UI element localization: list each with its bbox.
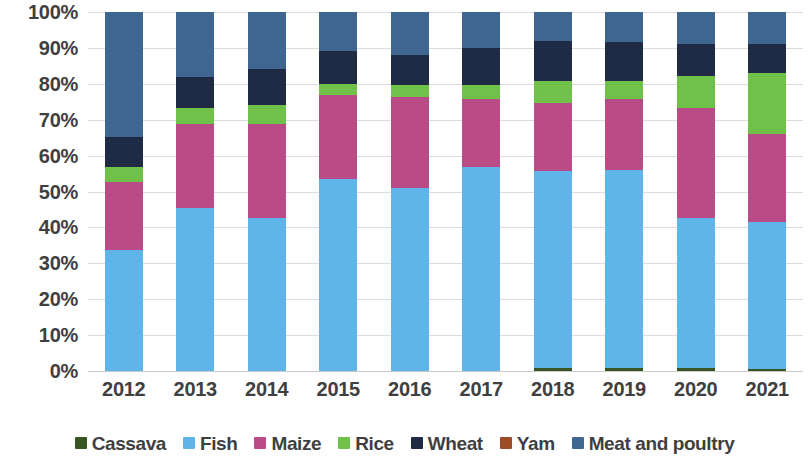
y-axis-tick-label: 100%	[0, 1, 78, 24]
legend-item-label: Yam	[517, 434, 555, 453]
x-axis-tick-label: 2012	[88, 378, 160, 401]
bar-segment	[534, 103, 572, 171]
bar-stack	[462, 12, 500, 371]
legend-swatch-icon	[500, 437, 512, 449]
x-axis-tick-label: 2018	[517, 378, 589, 401]
bar-stack	[391, 12, 429, 371]
y-axis-tick-label: 10%	[0, 324, 78, 347]
legend-swatch-icon	[183, 437, 195, 449]
x-axis-tick-label: 2021	[732, 378, 804, 401]
legend-item-label: Rice	[355, 434, 394, 453]
bar-segment	[677, 368, 715, 371]
bar-segment	[105, 12, 143, 137]
bar-segment	[677, 12, 715, 44]
bar-segment	[105, 137, 143, 167]
bar-segment	[248, 69, 286, 105]
bar-segment	[748, 44, 786, 73]
bar-segment	[677, 108, 715, 217]
bar-segment	[748, 134, 786, 223]
bar-segment	[391, 85, 429, 98]
chart-legend: CassavaFishMaizeRiceWheatYamMeat and pou…	[0, 428, 809, 458]
bar-segment	[605, 81, 643, 99]
bar-segment	[391, 55, 429, 84]
bar-stack	[319, 12, 357, 371]
x-axis-tick-label: 2016	[374, 378, 446, 401]
y-axis-tick-label: 0%	[0, 360, 78, 383]
bar-segment	[748, 73, 786, 134]
bar-segment	[462, 85, 500, 99]
bar-stack	[534, 12, 572, 371]
legend-swatch-icon	[338, 437, 350, 449]
bar-segment	[534, 12, 572, 41]
x-axis-tick-label: 2020	[660, 378, 732, 401]
bar-segment	[462, 99, 500, 167]
legend-item[interactable]: Wheat	[411, 434, 483, 453]
bar-segment	[605, 12, 643, 42]
y-axis-tick-label: 30%	[0, 252, 78, 275]
bar-segment	[176, 108, 214, 124]
legend-item-label: Meat and poultry	[589, 434, 735, 453]
y-axis-tick-label: 50%	[0, 180, 78, 203]
bar-segment	[462, 12, 500, 48]
legend-swatch-icon	[75, 437, 87, 449]
bar-stack	[105, 12, 143, 371]
bar-segment	[319, 95, 357, 179]
legend-item[interactable]: Cassava	[75, 434, 166, 453]
y-axis-tick-label: 20%	[0, 288, 78, 311]
bar-segment	[105, 167, 143, 182]
bar-segment	[605, 170, 643, 369]
bar-segment	[391, 188, 429, 371]
bar-segment	[176, 124, 214, 208]
bar-segment	[534, 81, 572, 103]
legend-swatch-icon	[411, 437, 423, 449]
y-axis-tick-label: 60%	[0, 144, 78, 167]
bar-segment	[319, 84, 357, 95]
bar-segment	[105, 250, 143, 371]
bar-segment	[605, 368, 643, 371]
y-axis-tick-label: 40%	[0, 216, 78, 239]
x-axis-tick-label: 2014	[231, 378, 303, 401]
bar-stack	[677, 12, 715, 371]
bar-stack	[176, 12, 214, 371]
bar-segment	[319, 179, 357, 371]
bar-stack	[748, 12, 786, 371]
bar-segment	[748, 369, 786, 371]
bar-stack	[605, 12, 643, 371]
bar-segment	[248, 105, 286, 124]
gridline	[88, 371, 803, 372]
legend-item[interactable]: Meat and poultry	[572, 434, 735, 453]
stacked-bar-chart: 0%10%20%30%40%50%60%70%80%90%100% 201220…	[0, 0, 809, 460]
legend-item-label: Cassava	[92, 434, 166, 453]
legend-item-label: Fish	[200, 434, 237, 453]
legend-item[interactable]: Fish	[183, 434, 237, 453]
bar-segment	[176, 77, 214, 108]
legend-item-label: Wheat	[428, 434, 483, 453]
bar-segment	[248, 124, 286, 218]
legend-item[interactable]: Maize	[254, 434, 321, 453]
bar-segment	[677, 76, 715, 108]
x-axis-tick-label: 2015	[303, 378, 375, 401]
x-axis-tick-label: 2013	[160, 378, 232, 401]
legend-swatch-icon	[254, 437, 266, 449]
bar-segment	[248, 12, 286, 69]
bar-segment	[748, 12, 786, 44]
legend-item[interactable]: Yam	[500, 434, 555, 453]
legend-swatch-icon	[572, 437, 584, 449]
bar-segment	[176, 208, 214, 371]
bar-segment	[605, 42, 643, 81]
x-axis-tick-label: 2019	[589, 378, 661, 401]
bar-stack	[248, 12, 286, 371]
legend-item[interactable]: Rice	[338, 434, 394, 453]
bar-segment	[748, 222, 786, 368]
y-axis: 0%10%20%30%40%50%60%70%80%90%100%	[0, 12, 78, 371]
bar-segment	[176, 12, 214, 77]
bar-segment	[534, 41, 572, 80]
x-axis: 2012201320142015201620172018201920202021	[88, 378, 803, 410]
y-axis-tick-label: 70%	[0, 108, 78, 131]
bar-segment	[534, 171, 572, 368]
bar-segment	[391, 12, 429, 55]
y-axis-tick-label: 80%	[0, 72, 78, 95]
bar-segment	[534, 368, 572, 371]
bar-segment	[319, 51, 357, 83]
plot-area	[88, 12, 803, 371]
